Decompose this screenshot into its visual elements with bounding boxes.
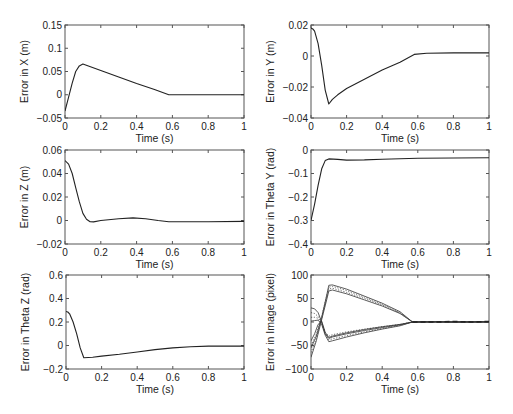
x-axis-label: Time (s) bbox=[381, 132, 419, 144]
series-line-u2 bbox=[311, 286, 489, 345]
y-tick-label: 0.02 bbox=[289, 20, 309, 31]
series-line-error_z bbox=[65, 161, 244, 222]
x-axis-label: Time (s) bbox=[381, 258, 419, 270]
y-tick-label: 0.15 bbox=[43, 20, 63, 31]
plot-frame bbox=[65, 150, 244, 244]
y-tick-label: −0.2 bbox=[43, 364, 63, 375]
x-tick-label: 0.6 bbox=[165, 121, 179, 132]
x-tick-label: 0.6 bbox=[166, 372, 180, 383]
figure: 00.20.40.60.81−0.0500.050.10.15Time (s)E… bbox=[0, 0, 513, 414]
subplot-theta_y: 00.20.40.60.81−0.4−0.3−0.2−0.10Time (s)E… bbox=[264, 145, 492, 271]
subplot-image: 00.20.40.60.81−100−50050100Time (s)Error… bbox=[264, 270, 492, 396]
x-tick-label: 0.8 bbox=[446, 247, 460, 258]
y-tick-label: −0.3 bbox=[288, 215, 308, 226]
x-tick-label: 0.6 bbox=[411, 121, 425, 132]
subplot-z: 00.20.40.60.81−0.0200.020.040.06Time (s)… bbox=[18, 145, 247, 271]
x-tick-label: 0.6 bbox=[411, 372, 425, 383]
y-tick-label: 0 bbox=[56, 89, 62, 100]
x-tick-label: 0.4 bbox=[375, 121, 389, 132]
plot-frame bbox=[311, 25, 489, 118]
x-tick-label: 0.4 bbox=[130, 121, 144, 132]
x-tick-label: 0.2 bbox=[340, 372, 354, 383]
x-tick-label: 0.2 bbox=[95, 372, 109, 383]
x-tick-label: 0.2 bbox=[340, 247, 354, 258]
y-tick-label: −0.1 bbox=[288, 168, 308, 179]
subplot-x: 00.20.40.60.81−0.0500.050.10.15Time (s)E… bbox=[18, 20, 247, 145]
y-tick-label: 0.02 bbox=[43, 192, 63, 203]
plot-frame bbox=[65, 25, 244, 118]
y-axis-label: Error in Image (pixel) bbox=[264, 273, 276, 371]
x-axis-label: Time (s) bbox=[136, 383, 174, 395]
x-tick-label: 0 bbox=[63, 372, 69, 383]
y-axis-label: Error in Theta Y (rad) bbox=[264, 148, 276, 247]
x-tick-label: 1 bbox=[241, 121, 247, 132]
x-tick-label: 0.8 bbox=[446, 121, 460, 132]
y-tick-label: 0 bbox=[302, 317, 308, 328]
x-tick-label: 1 bbox=[241, 372, 247, 383]
series-line-u4 bbox=[311, 288, 489, 352]
y-axis-label: Error in Theta Z (rad) bbox=[19, 273, 31, 371]
series-line-error_y bbox=[311, 28, 489, 104]
x-tick-label: 0.4 bbox=[375, 247, 389, 258]
x-tick-label: 0.6 bbox=[411, 247, 425, 258]
y-tick-label: 0.05 bbox=[43, 66, 63, 77]
y-tick-label: −0.05 bbox=[37, 113, 63, 124]
x-tick-label: 1 bbox=[486, 372, 492, 383]
subplot-y: 00.20.40.60.81−0.04−0.0200.02Time (s)Err… bbox=[264, 20, 492, 145]
x-tick-label: 0 bbox=[62, 121, 68, 132]
series-line-v3 bbox=[311, 320, 489, 342]
x-tick-label: 0.8 bbox=[201, 121, 215, 132]
x-tick-label: 0.6 bbox=[165, 247, 179, 258]
y-tick-label: 0.04 bbox=[43, 168, 63, 179]
x-axis-label: Time (s) bbox=[381, 383, 419, 395]
series-line-error_theta_z bbox=[66, 311, 244, 357]
x-tick-label: 0 bbox=[308, 247, 314, 258]
y-axis-label: Error in Z (m) bbox=[18, 166, 30, 228]
series-line-error_theta_y bbox=[311, 158, 489, 221]
x-tick-label: 0.8 bbox=[201, 247, 215, 258]
y-tick-label: −0.02 bbox=[37, 239, 63, 250]
y-axis-label: Error in X (m) bbox=[18, 40, 30, 103]
x-tick-label: 1 bbox=[486, 121, 492, 132]
x-tick-label: 0.2 bbox=[340, 121, 354, 132]
y-tick-label: −0.04 bbox=[283, 113, 309, 124]
x-tick-label: 1 bbox=[241, 247, 247, 258]
y-tick-label: 0.6 bbox=[49, 270, 63, 281]
x-tick-label: 0.2 bbox=[94, 121, 108, 132]
series-line-error_x bbox=[65, 64, 244, 111]
series-line-u1 bbox=[311, 285, 489, 348]
y-tick-label: 0 bbox=[302, 51, 308, 62]
y-tick-label: 0.06 bbox=[43, 145, 63, 156]
x-tick-label: 0.2 bbox=[94, 247, 108, 258]
y-tick-label: −0.2 bbox=[288, 192, 308, 203]
x-tick-label: 0 bbox=[308, 372, 314, 383]
series-line-u3 bbox=[311, 290, 489, 357]
y-tick-label: 0.1 bbox=[48, 43, 62, 54]
y-tick-label: 0 bbox=[57, 340, 63, 351]
x-tick-label: 0.8 bbox=[446, 372, 460, 383]
x-tick-label: 1 bbox=[486, 247, 492, 258]
series-line-v4 bbox=[311, 317, 489, 340]
x-tick-label: 0 bbox=[308, 121, 314, 132]
y-tick-label: 50 bbox=[297, 293, 309, 304]
y-tick-label: −100 bbox=[285, 364, 308, 375]
plot-frame bbox=[66, 275, 244, 369]
y-tick-label: −0.02 bbox=[283, 82, 309, 93]
subplot-theta_z: 00.20.40.60.81−0.200.20.40.6Time (s)Erro… bbox=[19, 270, 247, 396]
x-tick-label: 0.4 bbox=[130, 247, 144, 258]
y-tick-label: 0 bbox=[302, 145, 308, 156]
x-axis-label: Time (s) bbox=[135, 258, 173, 270]
x-tick-label: 0 bbox=[62, 247, 68, 258]
y-tick-label: 100 bbox=[291, 270, 308, 281]
y-axis-label: Error in Y (m) bbox=[264, 40, 276, 103]
y-tick-label: −50 bbox=[291, 340, 308, 351]
x-tick-label: 0.4 bbox=[375, 372, 389, 383]
x-tick-label: 0.8 bbox=[201, 372, 215, 383]
y-tick-label: 0.4 bbox=[49, 293, 63, 304]
y-tick-label: 0 bbox=[56, 215, 62, 226]
plot-frame bbox=[311, 150, 489, 244]
y-tick-label: −0.4 bbox=[288, 239, 308, 250]
x-axis-label: Time (s) bbox=[135, 132, 173, 144]
x-tick-label: 0.4 bbox=[130, 372, 144, 383]
y-tick-label: 0.2 bbox=[49, 317, 63, 328]
